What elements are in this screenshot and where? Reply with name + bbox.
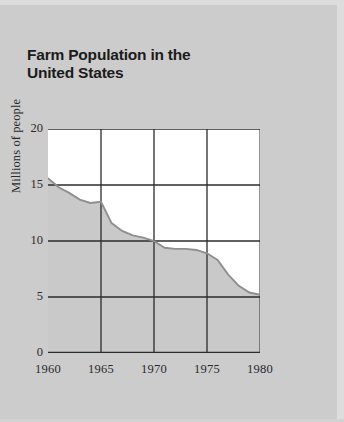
x-tick-label-1975: 1975: [184, 362, 230, 377]
y-tick-label-5: 5: [15, 289, 43, 304]
chart-title-line-1: Farm Population in the: [27, 46, 257, 64]
page-edge-right: [337, 0, 344, 422]
chart-title-line-2: United States: [27, 64, 257, 82]
y-tick-label-15: 15: [15, 177, 43, 192]
x-tick-label-1960: 1960: [25, 362, 71, 377]
plot-svg: [48, 129, 260, 353]
page-edge-top: [0, 0, 344, 5]
chart-figure: Farm Population in the United States Mil…: [0, 0, 344, 422]
y-tick-label-0: 0: [15, 345, 43, 360]
x-tick-label-1970: 1970: [131, 362, 177, 377]
x-tick-label-1980: 1980: [237, 362, 283, 377]
plot-area: [48, 129, 260, 353]
chart-title: Farm Population in the United States: [27, 46, 257, 82]
y-tick-label-10: 10: [15, 233, 43, 248]
x-tick-label-1965: 1965: [78, 362, 124, 377]
y-tick-label-20: 20: [15, 121, 43, 136]
y-axis-tick-labels: 20151050: [12, 129, 43, 353]
x-axis-tick-labels: 19601965197019751980: [0, 362, 344, 380]
